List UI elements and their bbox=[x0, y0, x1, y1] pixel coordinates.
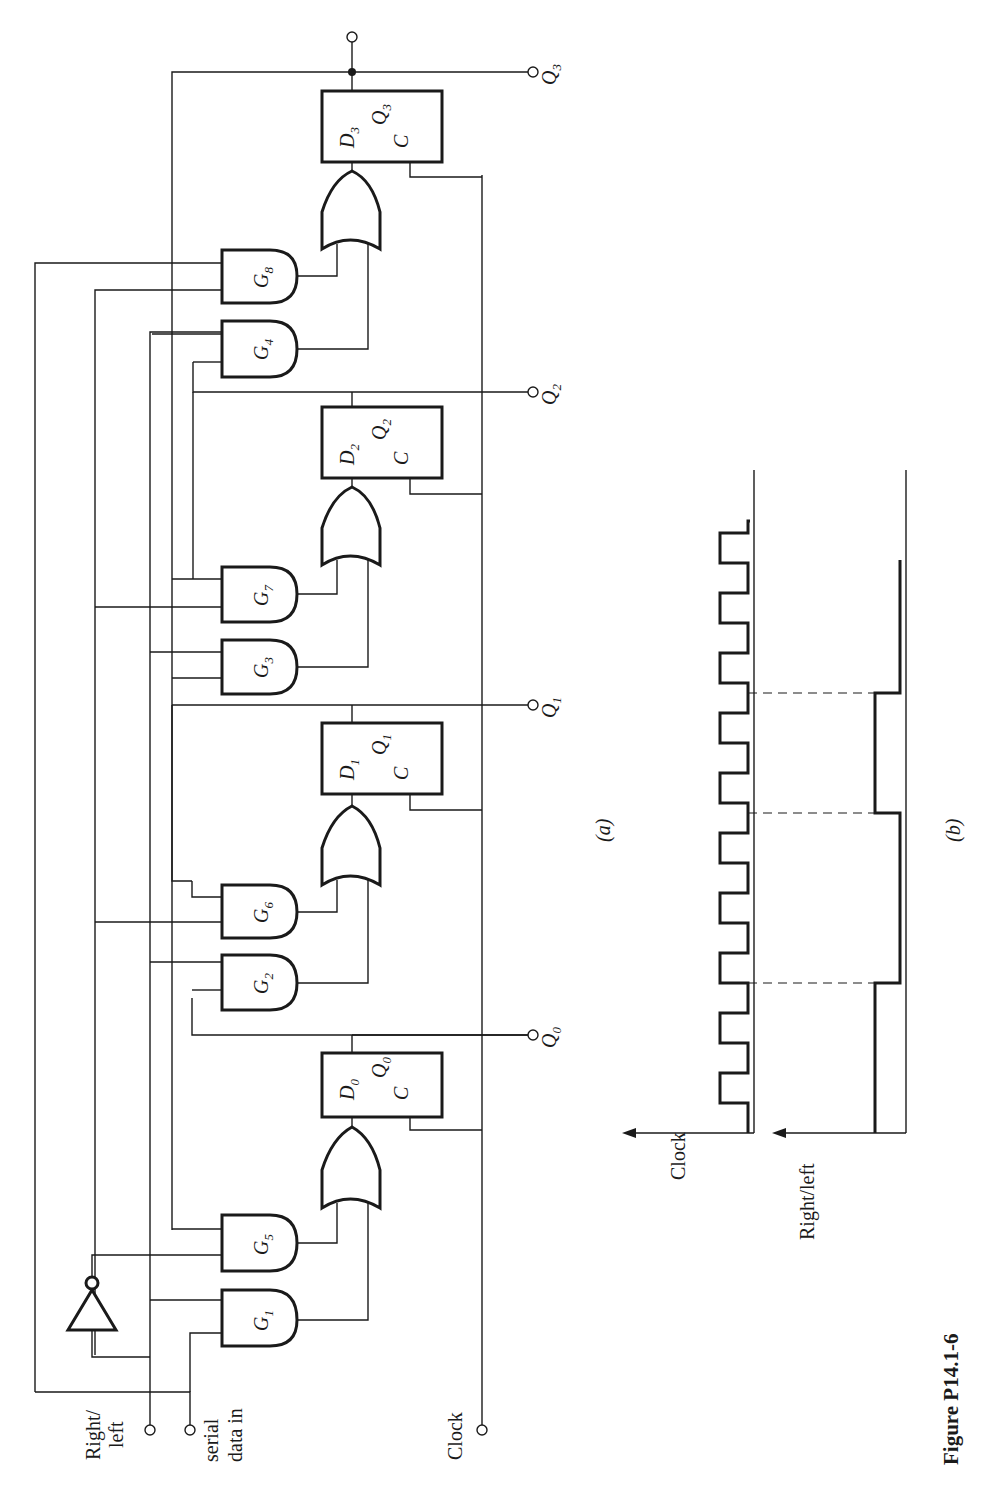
flipflop-labels: D0 Q0 C D1 Q1 C D2 Q2 C D3 Q3 C bbox=[336, 104, 412, 1101]
timing-rl-label: Right/left bbox=[796, 1163, 819, 1240]
wire-clock-ff1 bbox=[410, 794, 482, 810]
wire-inverter-in bbox=[92, 1330, 150, 1357]
wire-rl bbox=[150, 332, 222, 1425]
part-a-label: (a) bbox=[592, 818, 615, 842]
gate-labels: G8 G4 G7 G3 G6 G2 G5 G1 bbox=[250, 267, 276, 1331]
wire-serial bbox=[35, 1392, 190, 1425]
svg-text:C: C bbox=[390, 766, 412, 780]
wire-g6-in1 bbox=[192, 881, 222, 897]
svg-text:left: left bbox=[105, 1421, 127, 1448]
terminal-q3-top[interactable] bbox=[347, 32, 357, 42]
terminal-serial-data-in[interactable] bbox=[185, 1425, 195, 1435]
terminal-q2[interactable] bbox=[528, 387, 538, 397]
clock-waveform bbox=[720, 521, 750, 1133]
figure-caption: Figure P14.1-6 bbox=[939, 1334, 963, 1465]
svg-text:Right/: Right/ bbox=[82, 1410, 105, 1460]
or-gate-1 bbox=[297, 794, 380, 983]
terminal-q0[interactable] bbox=[528, 1030, 538, 1040]
timing-clock-label: Clock bbox=[667, 1132, 689, 1180]
svg-text:Q1: Q1 bbox=[538, 697, 564, 718]
wire-clock-ff3 bbox=[410, 162, 482, 177]
inverter-bubble-icon bbox=[86, 1277, 98, 1289]
wire-q1-bus-ext bbox=[172, 705, 192, 881]
wire-rl-direct-outer bbox=[35, 263, 222, 1392]
wire-rl-inverted bbox=[95, 290, 222, 1355]
terminal-clock[interactable] bbox=[477, 1425, 487, 1435]
svg-text:Clock: Clock bbox=[444, 1412, 466, 1460]
or-gate-3 bbox=[297, 162, 380, 349]
svg-text:C: C bbox=[390, 1086, 412, 1100]
or-gate-0 bbox=[297, 1117, 380, 1320]
svg-text:Q0: Q0 bbox=[538, 1027, 564, 1048]
right-left-waveform bbox=[875, 560, 900, 1133]
svg-text:C: C bbox=[390, 451, 412, 465]
wire-inverter-out bbox=[92, 1255, 222, 1277]
svg-text:Q2: Q2 bbox=[538, 384, 564, 405]
schematic-canvas: G8 G4 G7 G3 G6 G2 G5 G1 D0 Q0 C D1 Q1 C … bbox=[0, 0, 996, 1497]
arrow-icon-rl bbox=[772, 1128, 786, 1138]
wire-clock-ff0 bbox=[410, 1117, 482, 1130]
svg-text:serial: serial bbox=[200, 1418, 222, 1462]
output-labels: Q0 Q1 Q2 Q3 bbox=[538, 64, 564, 1048]
arrow-icon-clock bbox=[622, 1128, 636, 1138]
terminal-q1[interactable] bbox=[528, 700, 538, 710]
part-b-label: (b) bbox=[942, 818, 965, 842]
svg-text:C: C bbox=[390, 134, 412, 148]
timing-diagram: Clock Right/left bbox=[622, 470, 906, 1240]
terminal-q3[interactable] bbox=[528, 67, 538, 77]
input-labels: Right/ left serial data in Clock bbox=[82, 1408, 466, 1462]
terminal-right-left[interactable] bbox=[145, 1425, 155, 1435]
svg-text:data in: data in bbox=[224, 1408, 246, 1462]
inverter-icon bbox=[68, 1290, 116, 1330]
wire-serial-to-g1 bbox=[190, 1333, 222, 1392]
svg-text:Q3: Q3 bbox=[538, 64, 564, 85]
or-gate-2 bbox=[297, 478, 380, 667]
wire-clock-ff2 bbox=[410, 478, 482, 494]
